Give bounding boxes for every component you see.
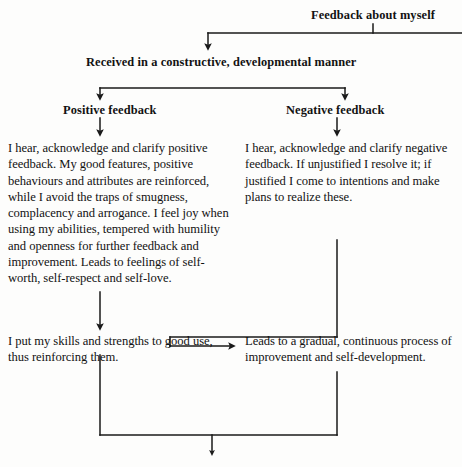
node-negative-outcome-text: Leads to a gradual, continuous process o… <box>245 333 459 366</box>
node-positive-body-text: I hear, acknowledge and clarify positive… <box>8 140 232 287</box>
node-received-label: Received in a constructive, developmenta… <box>86 55 356 69</box>
flowchart-canvas: Feedback about myself Received in a cons… <box>0 0 462 467</box>
node-negative-body-text: I hear, acknowledge and clarify negative… <box>245 140 459 205</box>
node-positive-feedback-label: Positive feedback <box>63 103 157 117</box>
node-negative-feedback-label: Negative feedback <box>286 103 384 117</box>
node-root-label: Feedback about myself <box>311 8 435 22</box>
node-positive-outcome-text: I put my skills and strengths to good us… <box>8 333 230 366</box>
